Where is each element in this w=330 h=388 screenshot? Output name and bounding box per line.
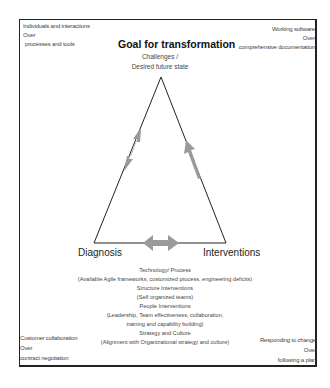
detail-line: training and capability building) <box>70 320 260 329</box>
detail-line: (Alignment with Organizational strategy … <box>70 338 260 347</box>
detail-line: Technology/ Process <box>70 266 260 275</box>
interventions-details: Technology/ Process (Available Agile fra… <box>70 266 260 347</box>
double-arrow-bottom-icon <box>143 235 179 251</box>
detail-line: (Available Agile frameworks, customized … <box>70 275 260 284</box>
detail-line: (Leadership, Team effectiveness, collabo… <box>70 311 260 320</box>
vertex-label-interventions: Interventions <box>203 247 260 258</box>
double-arrow-left-icon <box>124 129 141 171</box>
detail-line: Strategy and Culture <box>70 329 260 338</box>
triangle-shape <box>94 77 226 243</box>
vertex-label-diagnosis: Diagnosis <box>78 247 122 258</box>
detail-line: Structure Interventions <box>70 284 260 293</box>
detail-line: (Self organized teams) <box>70 293 260 302</box>
detail-line: People Interventions <box>70 302 260 311</box>
arrow-right-edge-icon <box>184 140 201 179</box>
